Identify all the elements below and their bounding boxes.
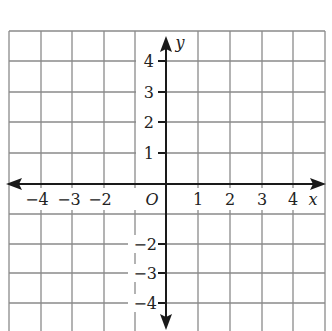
y-tick-label: −4 <box>133 294 157 313</box>
x-axis-label: x <box>308 190 317 209</box>
x-tick-label: −2 <box>88 190 112 209</box>
x-tick-label: 2 <box>225 190 235 209</box>
x-tick-label: −3 <box>57 190 81 209</box>
x-tick-label: 4 <box>288 190 298 209</box>
y-tick-label: −2 <box>133 235 157 254</box>
axes <box>6 36 326 330</box>
y-tick-label: 3 <box>144 83 154 102</box>
y-tick-label: −3 <box>133 264 157 283</box>
y-tick-label: 1 <box>144 144 154 163</box>
x-tick-label: −4 <box>25 190 49 209</box>
origin-label: O <box>145 190 158 209</box>
y-axis-label: y <box>174 33 185 52</box>
coordinate-plane: 4 3 2 1 −2 −3 −4 −4 −3 −2 1 2 3 4 O x y <box>0 0 332 331</box>
x-tick-label: 1 <box>193 190 203 209</box>
y-tick-label: 4 <box>144 52 154 71</box>
y-tick-label: 2 <box>144 113 154 132</box>
x-tick-label: 3 <box>257 190 267 209</box>
